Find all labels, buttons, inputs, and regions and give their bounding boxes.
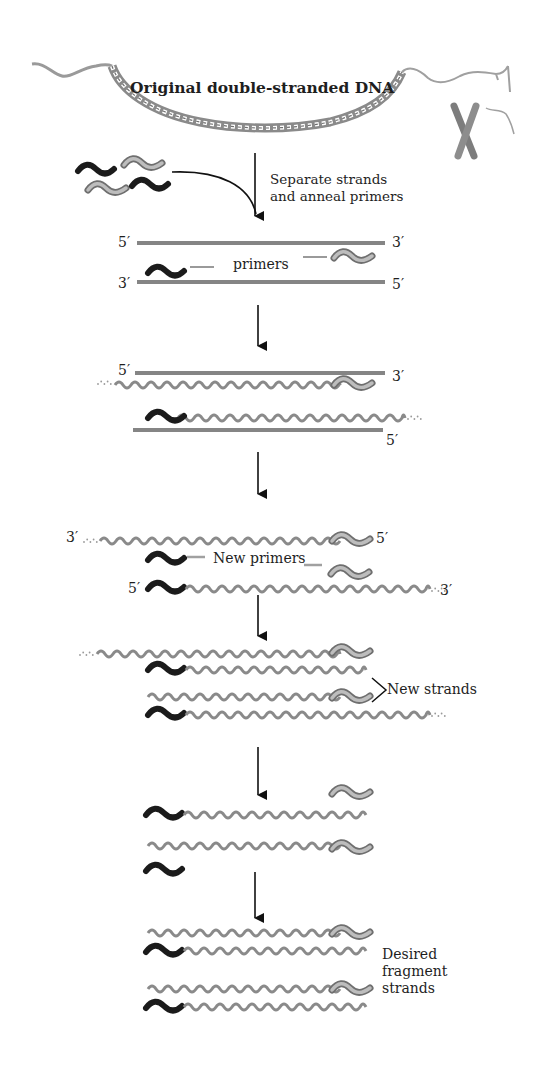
new-primers-label: New primers <box>213 550 306 567</box>
primers-label: primers <box>233 256 289 273</box>
three-prime-label: 3′ <box>118 275 130 292</box>
new-strands-bracket <box>372 678 386 702</box>
five-prime-label: 5′ <box>118 362 130 379</box>
desired-fragment-label: Desired fragment strands <box>382 946 447 997</box>
five-prime-label: 5′ <box>376 530 388 547</box>
five-prime-label: 5′ <box>392 276 404 293</box>
free-primers <box>78 159 168 193</box>
curved-arrow <box>172 172 256 214</box>
separate-strands-label: Separate strands and anneal primers <box>270 171 403 205</box>
pcr-diagram: Original double-stranded DNA Separate st… <box>0 0 536 1075</box>
five-prime-label: 5′ <box>118 234 130 251</box>
original-dna-helix <box>32 64 514 134</box>
five-prime-label: 5′ <box>128 580 140 597</box>
pcr-artwork <box>0 0 536 1075</box>
three-prime-label: 3′ <box>392 368 404 385</box>
five-prime-label: 5′ <box>386 432 398 449</box>
new-strands-label: New strands <box>387 681 477 698</box>
three-prime-label: 3′ <box>392 234 404 251</box>
chromosome-icon <box>454 106 476 156</box>
three-prime-label: 3′ <box>66 529 78 546</box>
original-dna-label: Original double-stranded DNA <box>130 79 394 96</box>
three-prime-label: 3′ <box>440 582 452 599</box>
